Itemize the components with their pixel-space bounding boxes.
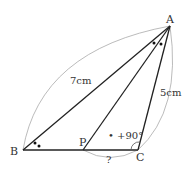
label-b: B — [10, 145, 18, 158]
label-a: A — [165, 13, 175, 26]
angle-mark-a2 — [160, 43, 163, 46]
angle-mark-b1 — [34, 142, 37, 145]
label-c: C — [136, 151, 144, 164]
label-pc-unknown: ? — [106, 154, 111, 165]
triangle-diagram: A B P C 7cm 5cm ? • +90° — [0, 0, 190, 172]
angle-mark-b2 — [38, 145, 41, 148]
angle-mark-a1 — [153, 42, 156, 45]
label-ab-length: 7cm — [70, 75, 92, 86]
label-angle-c: • +90° — [108, 130, 143, 141]
label-ac-length: 5cm — [160, 87, 182, 98]
label-p: P — [79, 136, 87, 149]
